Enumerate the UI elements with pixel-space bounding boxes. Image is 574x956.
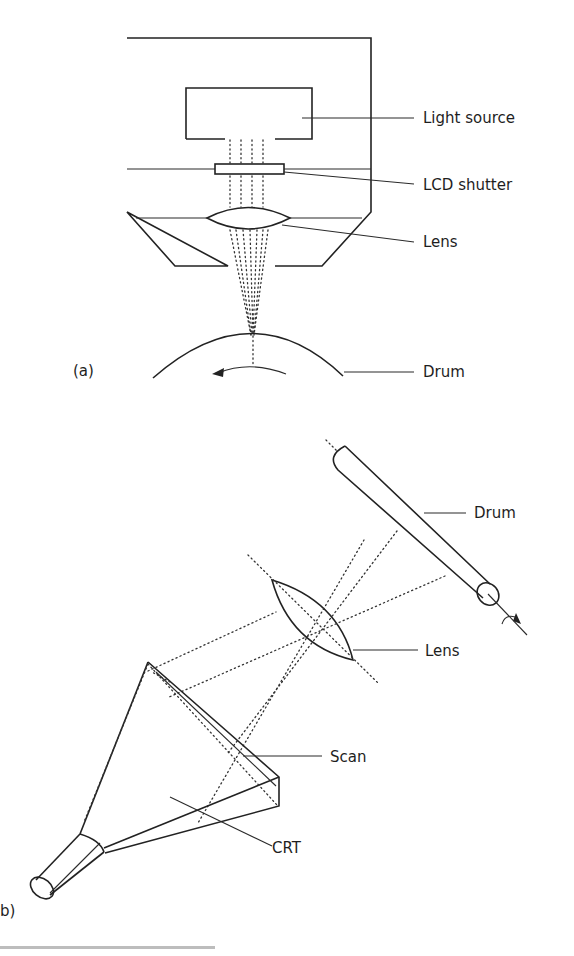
- rotation-arrow-b: [513, 613, 521, 624]
- leader-lcd-shutter: [284, 172, 414, 184]
- label-crt: CRT: [272, 839, 302, 857]
- crt: [26, 662, 279, 903]
- light-dots-middle: [230, 176, 263, 207]
- lens-b: [272, 580, 353, 660]
- label-lens-a: Lens: [423, 233, 458, 251]
- lens-a: [207, 208, 290, 230]
- label-lcd-shutter: LCD shutter: [423, 176, 513, 194]
- panel-a: Light source LCD shutter Lens Drum (a): [73, 38, 515, 381]
- panel-b: Drum Lens Scan CRT b): [0, 440, 527, 920]
- label-light-source: Light source: [423, 109, 515, 127]
- light-source-box: [186, 88, 312, 139]
- lcd-shutter: [215, 164, 284, 174]
- leader-lens-a: [282, 225, 414, 242]
- leader-crt: [170, 797, 272, 846]
- diagram-canvas: Light source LCD shutter Lens Drum (a): [0, 0, 574, 956]
- light-cone: [230, 230, 268, 364]
- panel-a-label: (a): [73, 362, 94, 380]
- panel-b-label: b): [0, 902, 15, 920]
- drum-arc-a: [153, 333, 343, 378]
- label-scan: Scan: [330, 748, 366, 766]
- rotation-arrow-a: [218, 367, 286, 374]
- light-rays-b: [148, 531, 445, 823]
- label-drum-b: Drum: [474, 504, 516, 522]
- arrow-head-a: [212, 368, 224, 377]
- drum-cylinder: [326, 440, 527, 635]
- light-dots-upper: [230, 140, 263, 163]
- label-drum-a: Drum: [423, 363, 465, 381]
- bottom-rule: [0, 946, 215, 949]
- label-lens-b: Lens: [425, 642, 460, 660]
